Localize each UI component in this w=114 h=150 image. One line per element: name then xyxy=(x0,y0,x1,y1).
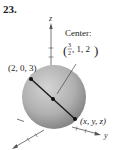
z-axis-label: z xyxy=(48,14,53,23)
center-rest: , 1, 2 xyxy=(72,44,90,54)
center-dot xyxy=(51,97,55,101)
sphere-diagram: z y Center: ( 3 2 , 1, 2 ) (2, 0, 3) (x,… xyxy=(0,0,114,150)
center-paren-close: ) xyxy=(94,43,98,58)
point-b-label: (x, y, z) xyxy=(80,116,106,126)
point-a-label: (2, 0, 3) xyxy=(8,63,37,73)
z-axis: z xyxy=(48,14,54,66)
y-axis xyxy=(17,119,24,122)
point-a-dot xyxy=(29,77,33,81)
center-frac-den: 2 xyxy=(68,50,71,56)
center-frac-num: 3 xyxy=(68,42,71,48)
point-b-dot xyxy=(73,117,77,121)
x-axis xyxy=(12,130,44,149)
y-axis-front: y xyxy=(72,127,108,141)
y-axis-label: y xyxy=(103,131,108,140)
center-label-coords: ( 3 2 , 1, 2 ) xyxy=(63,42,98,58)
center-paren-open: ( xyxy=(63,43,67,58)
center-label-title: Center: xyxy=(65,28,92,38)
